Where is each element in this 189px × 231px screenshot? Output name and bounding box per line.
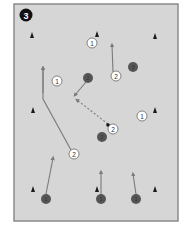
svg-text:2: 2 xyxy=(72,151,76,158)
svg-text:3: 3 xyxy=(131,64,134,70)
svg-text:2: 2 xyxy=(100,134,103,140)
player: 3 xyxy=(128,62,138,72)
drill-diagram: 3 1 2 1 1 2 2 2 3 2 1 1 1 xyxy=(0,0,189,231)
svg-text:3: 3 xyxy=(23,11,28,21)
svg-text:1: 1 xyxy=(134,196,137,202)
svg-text:1: 1 xyxy=(90,40,94,47)
svg-text:2: 2 xyxy=(114,73,118,80)
marker: 1 xyxy=(87,38,97,48)
svg-text:1: 1 xyxy=(55,78,59,85)
marker: 1 xyxy=(52,76,62,86)
svg-text:2: 2 xyxy=(111,126,115,133)
player: 1 xyxy=(41,194,51,204)
marker: 2 xyxy=(108,124,118,134)
svg-text:1: 1 xyxy=(44,196,47,202)
player: 2 xyxy=(97,132,107,142)
svg-text:2: 2 xyxy=(86,75,89,81)
marker: 1 xyxy=(137,111,147,121)
player: 2 xyxy=(83,73,93,83)
svg-text:1: 1 xyxy=(99,196,102,202)
marker: 2 xyxy=(111,71,121,81)
svg-text:1: 1 xyxy=(140,113,144,120)
player: 1 xyxy=(131,194,141,204)
marker: 2 xyxy=(69,149,79,159)
step-badge: 3 xyxy=(20,9,33,22)
player: 1 xyxy=(96,194,106,204)
